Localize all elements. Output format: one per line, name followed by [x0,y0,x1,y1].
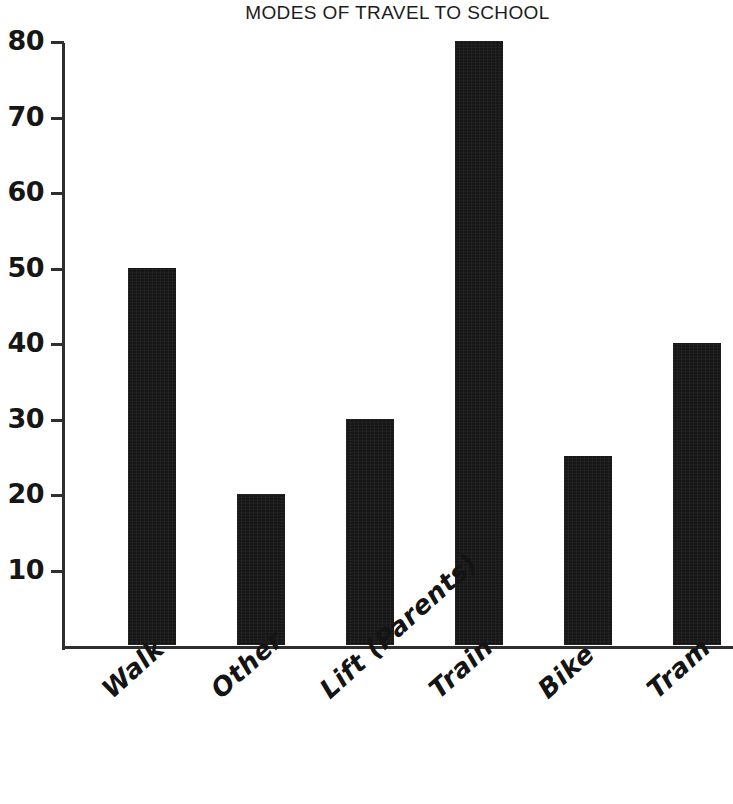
y-axis-tick-label-20: 20 [0,480,44,507]
y-axis-tick-60 [51,192,64,195]
y-axis-tick-label-60: 60 [0,178,44,205]
y-axis-tick-80 [51,41,64,44]
y-axis-tick-40 [51,343,64,346]
y-axis-tick-50 [51,268,64,271]
y-axis-tick-label-10: 10 [0,556,44,583]
y-axis-tick-label-80: 80 [0,27,44,54]
bar-lift-parents [346,419,394,646]
y-axis-tick-label-70: 70 [0,103,44,130]
y-axis-tick-label-40: 40 [0,329,44,356]
bar-chart: MODES OF TRAVEL TO SCHOOL 10203040506070… [0,0,733,804]
bar-tram [673,343,721,645]
plot-area: 1020304050607080 [62,38,733,648]
y-axis-tick-20 [51,494,64,497]
bar-walk [128,268,176,646]
y-axis-line [62,43,65,650]
y-axis-tick-10 [51,570,64,573]
chart-title: MODES OF TRAVEL TO SCHOOL [31,2,733,24]
y-axis-tick-label-50: 50 [0,254,44,281]
y-axis-tick-70 [51,117,64,120]
y-axis-tick-label-30: 30 [0,405,44,432]
bar-other [237,494,285,645]
bar-bike [564,456,612,645]
y-axis-tick-30 [51,419,64,422]
